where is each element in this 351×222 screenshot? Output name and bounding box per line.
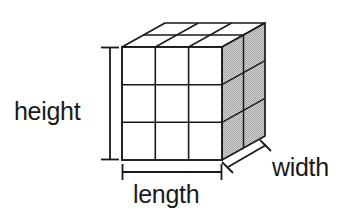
length-dimension-line: [122, 164, 222, 180]
prism-front-face: [122, 47, 222, 160]
diagram-canvas: height length width: [0, 0, 351, 222]
length-label: length: [133, 182, 199, 207]
prism-side-face: [222, 23, 265, 160]
height-label: height: [14, 99, 80, 124]
width-dimension-tick-far: [260, 140, 271, 151]
front-face-outline: [122, 47, 222, 160]
height-dimension-line: [101, 47, 119, 160]
width-dimension-tick-near: [222, 162, 233, 173]
width-label: width: [272, 155, 329, 180]
